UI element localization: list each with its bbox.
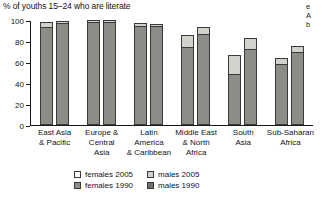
bar-males[interactable] bbox=[291, 46, 304, 125]
bar-segment-2005-males[interactable] bbox=[244, 38, 257, 50]
legend-swatch-females-1990 bbox=[74, 182, 81, 189]
y-axis-tick-mark bbox=[26, 84, 30, 85]
bar-females[interactable] bbox=[181, 35, 194, 125]
category-label: LatinAmerica& Caribbean bbox=[125, 128, 172, 157]
category-label: SouthAsia bbox=[220, 128, 267, 157]
category-label-line: Asia bbox=[78, 148, 125, 158]
bleed-text-line: e bbox=[306, 2, 322, 11]
bar-males[interactable] bbox=[56, 21, 69, 125]
legend-label-males-2005: males 2005 bbox=[158, 170, 199, 179]
bar-segment-1990-females[interactable] bbox=[87, 22, 100, 125]
legend-item-males-2005[interactable]: males 2005 bbox=[147, 170, 199, 179]
bar-group bbox=[219, 21, 266, 125]
category-label-line: America bbox=[125, 138, 172, 148]
category-label: Middle East& NorthAfrica bbox=[173, 128, 220, 157]
bar-segment-2005-females[interactable] bbox=[181, 35, 194, 48]
bar-males[interactable] bbox=[103, 20, 116, 125]
bleed-text-line: A bbox=[306, 11, 322, 20]
bar-segment-2005-females[interactable] bbox=[228, 55, 241, 74]
category-axis-labels: East Asia& PacificEurope &CentralAsiaLat… bbox=[31, 128, 314, 157]
bar-segment-1990-females[interactable] bbox=[228, 74, 241, 125]
y-axis-tick-mark bbox=[26, 21, 30, 22]
y-axis-tick-mark bbox=[26, 63, 30, 64]
bar-segment-1990-males[interactable] bbox=[291, 52, 304, 126]
chart-legend: females 2005males 2005females 1990males … bbox=[74, 170, 199, 190]
chart-title: % of youths 15–24 who are literate bbox=[3, 1, 131, 11]
bar-males[interactable] bbox=[150, 24, 163, 125]
legend-swatch-males-1990 bbox=[147, 182, 154, 189]
literacy-bar-chart: % of youths 15–24 who are literate eAb 0… bbox=[0, 0, 322, 198]
y-axis-tick-mark bbox=[26, 126, 30, 127]
bar-group bbox=[31, 21, 78, 125]
category-label-line: Latin bbox=[125, 128, 172, 138]
bar-segment-1990-females[interactable] bbox=[134, 26, 147, 125]
bar-segment-1990-males[interactable] bbox=[103, 22, 116, 125]
category-label: Sub-SaharanAfrica bbox=[267, 128, 314, 157]
bar-females[interactable] bbox=[40, 22, 53, 125]
y-axis-tick-mark bbox=[26, 42, 30, 43]
bar-group bbox=[266, 21, 313, 125]
category-label-line: Africa bbox=[173, 148, 220, 158]
plot-area: 020406080100 bbox=[30, 21, 313, 126]
category-label-line: Africa bbox=[267, 138, 314, 148]
category-label-line: & Pacific bbox=[31, 138, 78, 148]
bar-females[interactable] bbox=[228, 55, 241, 125]
category-label: Europe &CentralAsia bbox=[78, 128, 125, 157]
legend-item-females-1990[interactable]: females 1990 bbox=[74, 181, 133, 190]
bar-segment-1990-females[interactable] bbox=[181, 47, 194, 125]
y-axis-tick-label: 60 bbox=[15, 59, 24, 68]
legend-swatch-males-2005 bbox=[147, 171, 154, 178]
category-label-line: Europe & bbox=[78, 128, 125, 138]
legend-label-females-1990: females 1990 bbox=[85, 181, 133, 190]
bar-group bbox=[78, 21, 125, 125]
bar-segment-1990-males[interactable] bbox=[150, 26, 163, 125]
bar-group bbox=[172, 21, 219, 125]
category-label-line: Sub-Saharan bbox=[267, 128, 314, 138]
y-axis-tick-label: 20 bbox=[15, 101, 24, 110]
bar-groups bbox=[31, 21, 313, 125]
legend-label-males-1990: males 1990 bbox=[158, 181, 199, 190]
category-label-line: East Asia bbox=[31, 128, 78, 138]
bar-segment-1990-males[interactable] bbox=[56, 23, 69, 125]
legend-item-males-1990[interactable]: males 1990 bbox=[147, 181, 199, 190]
category-label-line: & North bbox=[173, 138, 220, 148]
y-axis-tick-label: 0 bbox=[20, 122, 24, 131]
bar-segment-1990-males[interactable] bbox=[244, 49, 257, 125]
y-axis-tick-mark bbox=[26, 105, 30, 106]
y-axis-tick-label: 40 bbox=[15, 80, 24, 89]
legend-label-females-2005: females 2005 bbox=[85, 170, 133, 179]
bar-males[interactable] bbox=[244, 38, 257, 125]
category-label-line: & Caribbean bbox=[125, 148, 172, 158]
legend-swatch-females-2005 bbox=[74, 171, 81, 178]
category-label-line: Asia bbox=[220, 138, 267, 148]
category-label: East Asia& Pacific bbox=[31, 128, 78, 157]
bar-group bbox=[125, 21, 172, 125]
category-label-line: Middle East bbox=[173, 128, 220, 138]
bar-females[interactable] bbox=[134, 23, 147, 125]
y-axis-tick-label: 100 bbox=[11, 17, 24, 26]
bar-females[interactable] bbox=[87, 20, 100, 125]
bar-females[interactable] bbox=[275, 58, 288, 125]
bar-segment-1990-females[interactable] bbox=[275, 64, 288, 125]
bar-segment-1990-males[interactable] bbox=[197, 34, 210, 125]
x-axis-line bbox=[30, 125, 313, 126]
legend-item-females-2005[interactable]: females 2005 bbox=[74, 170, 133, 179]
bar-segment-1990-females[interactable] bbox=[40, 27, 53, 125]
category-label-line: Central bbox=[78, 138, 125, 148]
category-label-line: South bbox=[220, 128, 267, 138]
bar-males[interactable] bbox=[197, 27, 210, 125]
y-axis-tick-label: 80 bbox=[15, 38, 24, 47]
